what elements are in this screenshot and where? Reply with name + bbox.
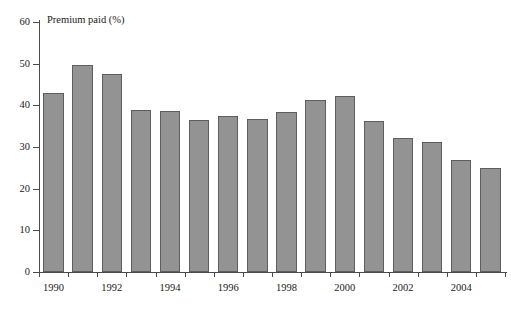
x-axis-tick — [97, 272, 98, 277]
y-axis-tick-label: 60 — [20, 17, 31, 28]
bar-1995 — [189, 120, 209, 272]
x-axis-tick — [156, 272, 157, 277]
x-axis-tick — [447, 272, 448, 277]
x-axis-tick-label-2000: 2000 — [334, 283, 355, 294]
x-axis-tick — [214, 272, 215, 277]
x-axis-tick — [39, 272, 40, 277]
bar-2001 — [364, 121, 384, 272]
bar-1998 — [276, 112, 296, 272]
bar-1997 — [247, 119, 267, 272]
x-axis-tick — [389, 272, 390, 277]
x-axis-tick-label-1996: 1996 — [218, 283, 239, 294]
bar-2003 — [422, 142, 442, 272]
x-axis-tick-label-2002: 2002 — [393, 283, 414, 294]
y-axis-tick — [33, 147, 39, 148]
x-axis-tick-label-1992: 1992 — [101, 283, 122, 294]
x-axis-tick — [476, 272, 477, 277]
y-axis-tick — [33, 230, 39, 231]
bar-2002 — [393, 138, 413, 272]
bar-2004 — [451, 160, 471, 273]
bar-1990 — [43, 93, 63, 272]
bar-1999 — [305, 100, 325, 273]
plot-area: 0102030405060 — [39, 22, 505, 272]
x-axis-tick — [272, 272, 273, 277]
y-axis-tick — [33, 105, 39, 106]
x-axis-tick-label-1998: 1998 — [276, 283, 297, 294]
bar-1993 — [131, 110, 151, 272]
bar-1996 — [218, 116, 238, 272]
bar-2000 — [335, 96, 355, 272]
y-axis-tick-label: 50 — [20, 58, 31, 69]
y-axis-tick — [33, 189, 39, 190]
y-axis-tick-label: 40 — [20, 100, 31, 111]
x-axis-tick — [418, 272, 419, 277]
x-axis-tick — [243, 272, 244, 277]
x-axis-tick — [301, 272, 302, 277]
bar-series — [39, 22, 505, 272]
y-axis-tick — [33, 64, 39, 65]
bar-1991 — [72, 65, 92, 273]
bar-chart: Premium paid (%) 0102030405060 199019921… — [0, 0, 511, 311]
bar-1994 — [160, 111, 180, 272]
x-axis-tick-label-1994: 1994 — [160, 283, 181, 294]
x-axis-tick — [126, 272, 127, 277]
x-axis-tick — [359, 272, 360, 277]
bar-1992 — [102, 74, 122, 272]
x-axis-tick — [185, 272, 186, 277]
y-axis-tick-label: 30 — [20, 142, 31, 153]
y-axis-tick-label: 20 — [20, 183, 31, 194]
x-axis-tick-label-2004: 2004 — [451, 283, 472, 294]
x-axis-tick — [330, 272, 331, 277]
x-axis-tick — [505, 272, 506, 277]
y-axis-tick-label: 10 — [20, 225, 31, 236]
bar-2005 — [480, 168, 500, 272]
x-axis-tick — [68, 272, 69, 277]
y-axis-tick-label: 0 — [25, 267, 30, 278]
y-axis-tick — [33, 22, 39, 23]
x-axis-tick-label-1990: 1990 — [43, 283, 64, 294]
